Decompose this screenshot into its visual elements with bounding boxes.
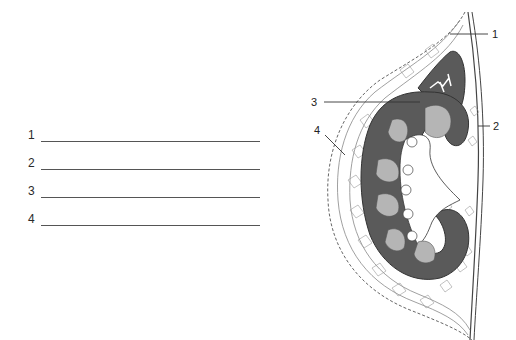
answer-row-2: 2 <box>28 156 260 172</box>
answer-row-3: 3 <box>28 184 260 200</box>
answer-blank-3[interactable] <box>41 197 260 198</box>
figure-label-1: 1 <box>492 28 498 40</box>
answer-number: 4 <box>28 212 35 226</box>
figure-label-2: 2 <box>493 120 499 132</box>
kidney-illustration <box>300 0 516 340</box>
answer-blank-1[interactable] <box>41 141 260 142</box>
answer-number: 1 <box>28 128 35 142</box>
answer-blank-2[interactable] <box>41 169 260 170</box>
answer-number: 3 <box>28 184 35 198</box>
answer-number: 2 <box>28 156 35 170</box>
answer-row-4: 4 <box>28 212 260 228</box>
figure-label-4: 4 <box>314 124 320 136</box>
kidney-diagram: 1 2 3 4 <box>300 0 516 340</box>
figure-label-3: 3 <box>311 96 317 108</box>
answer-blank-4[interactable] <box>41 225 260 226</box>
answer-row-1: 1 <box>28 128 260 144</box>
